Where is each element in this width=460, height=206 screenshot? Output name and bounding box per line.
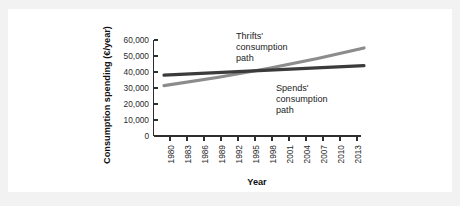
annotation-thrifts-line1: Thrifts'	[236, 31, 263, 41]
y-tick-label-60000: 60,000	[124, 35, 150, 45]
series-line-spends	[164, 66, 364, 76]
y-tick-label-40000: 40,000	[124, 67, 150, 77]
x-tick-label-1986: 1986	[200, 145, 210, 164]
annotation-spends-line2: consumption	[276, 94, 328, 104]
y-tick-label-50000: 50,000	[124, 51, 150, 61]
annotation-thrifts-line2: consumption	[236, 42, 288, 52]
x-tick-label-1983: 1983	[183, 145, 193, 164]
x-tick-label-2001: 2001	[285, 145, 295, 164]
figure-outer-frame: Consumption spending (€/year) 60,000 50,…	[0, 0, 460, 206]
y-tick-label-20000: 20,000	[124, 99, 150, 109]
x-axis-title: Year	[247, 177, 267, 187]
chart-plot-area: Consumption spending (€/year) 60,000 50,…	[8, 9, 452, 192]
x-tick-label-1992: 1992	[234, 145, 244, 164]
x-tick-label-1998: 1998	[268, 145, 278, 164]
x-tick-label-2007: 2007	[319, 145, 329, 164]
annotation-spends-line1: Spends'	[276, 83, 309, 93]
y-tick-label-0: 0	[144, 131, 149, 141]
x-tick-label-1980: 1980	[166, 145, 176, 164]
annotation-thrifts-line3: path	[236, 53, 254, 63]
x-tick-label-1995: 1995	[251, 145, 261, 164]
figure-panel: Consumption spending (€/year) 60,000 50,…	[8, 9, 452, 192]
x-tick-label-1989: 1989	[217, 145, 227, 164]
x-tick-label-2010: 2010	[336, 145, 346, 164]
y-axis-title: Consumption spending (€/year)	[102, 26, 112, 164]
y-tick-label-10000: 10,000	[124, 115, 150, 125]
line-chart: Consumption spending (€/year) 60,000 50,…	[8, 9, 452, 192]
x-tick-label-2004: 2004	[302, 145, 312, 164]
annotation-spends-line3: path	[276, 105, 294, 115]
y-tick-label-30000: 30,000	[124, 83, 150, 93]
x-tick-label-2013: 2013	[353, 145, 363, 164]
